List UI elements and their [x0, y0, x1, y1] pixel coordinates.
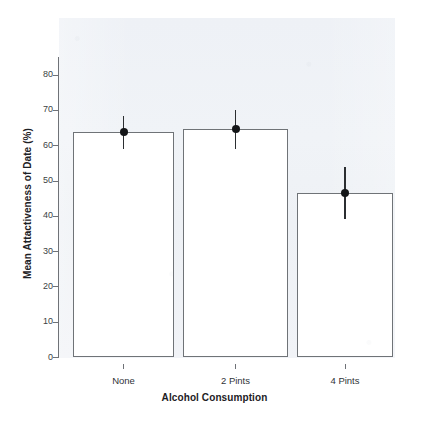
mean-point-marker — [120, 128, 128, 136]
x-tick-mark — [123, 364, 124, 369]
y-tick-label: 70 — [29, 105, 53, 114]
y-tick-mark — [53, 216, 58, 217]
bar — [183, 129, 288, 357]
x-axis-title: Alcohol Consumption — [0, 392, 429, 403]
y-tick-label: 0 — [29, 353, 53, 362]
y-tick-mark — [53, 251, 58, 252]
y-tick-label: 80 — [29, 70, 53, 79]
y-tick-mark — [53, 357, 58, 358]
y-tick-label-wrap: 0 — [22, 353, 53, 362]
y-tick-label-wrap: 40 — [22, 211, 53, 220]
y-tick-label-wrap: 30 — [22, 247, 53, 256]
y-tick-label-wrap: 20 — [22, 282, 53, 291]
x-tick-mark — [235, 364, 236, 369]
y-tick-label-wrap: 60 — [22, 141, 53, 150]
mean-point-marker — [232, 125, 240, 133]
y-tick-label: 40 — [29, 211, 53, 220]
bar-chart-figure: Mean Attactiveness of Date (%) 010203040… — [0, 0, 429, 428]
plot-panel: Mean Attactiveness of Date (%) 010203040… — [0, 0, 429, 428]
y-tick-mark — [53, 322, 58, 323]
x-tick-mark — [345, 364, 346, 369]
y-tick-label-wrap: 50 — [22, 176, 53, 185]
bar — [73, 132, 174, 358]
y-tick-label: 30 — [29, 247, 53, 256]
y-tick-label: 60 — [29, 141, 53, 150]
y-tick-label: 50 — [29, 176, 53, 185]
x-tick-label: 4 Pints — [295, 375, 395, 386]
y-tick-mark — [53, 145, 58, 146]
y-tick-label: 20 — [29, 282, 53, 291]
y-tick-mark — [53, 286, 58, 287]
y-tick-mark — [53, 110, 58, 111]
y-tick-mark — [53, 181, 58, 182]
y-tick-mark — [53, 75, 58, 76]
y-axis-title: Mean Attactiveness of Date (%) — [22, 104, 33, 304]
y-tick-label-wrap: 10 — [22, 317, 53, 326]
y-axis-line — [58, 57, 59, 358]
x-tick-label: None — [74, 375, 174, 386]
y-tick-label-wrap: 80 — [22, 70, 53, 79]
x-tick-label: 2 Pints — [186, 375, 286, 386]
y-tick-label: 10 — [29, 317, 53, 326]
y-tick-label-wrap: 70 — [22, 105, 53, 114]
